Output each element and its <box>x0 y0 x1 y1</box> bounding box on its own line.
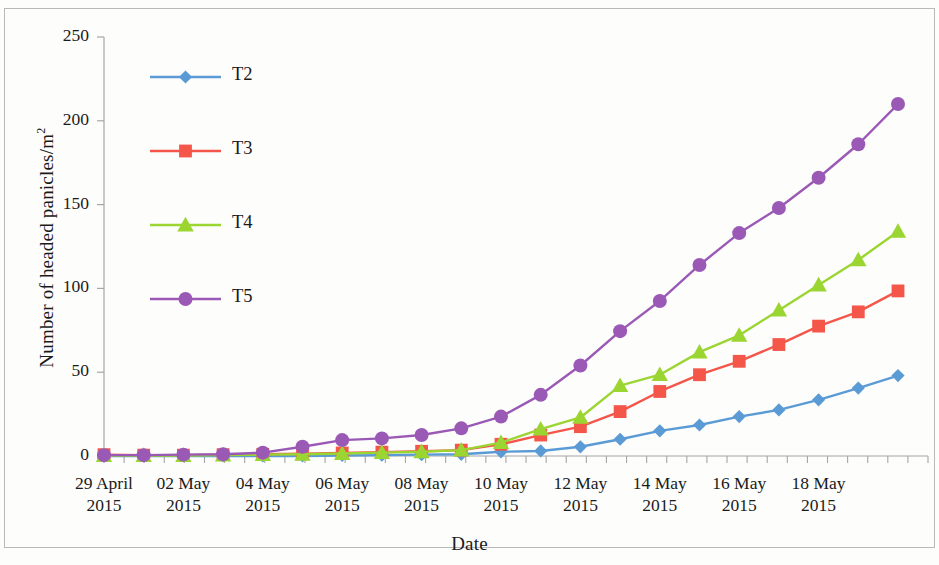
data-point <box>652 367 668 382</box>
data-point <box>454 421 468 435</box>
data-point <box>693 368 706 381</box>
legend-label-T3: T3 <box>232 138 253 159</box>
x-tick-label-year: 2015 <box>458 494 544 516</box>
x-tick-label-year: 2015 <box>299 494 385 516</box>
data-point <box>812 171 826 185</box>
x-tick-label-date: 16 May <box>696 472 782 494</box>
x-tick-label: 18 May2015 <box>776 472 862 517</box>
data-point <box>892 285 905 298</box>
data-point <box>534 388 548 402</box>
x-tick-label-date: 10 May <box>458 472 544 494</box>
x-tick-label: 10 May2015 <box>458 472 544 517</box>
x-tick-label: 12 May2015 <box>537 472 623 517</box>
data-point <box>614 433 627 446</box>
data-point <box>693 418 706 431</box>
data-point <box>653 385 666 398</box>
data-point <box>97 448 111 462</box>
legend-marker-T3 <box>179 145 192 158</box>
x-tick-label-date: 02 May <box>140 472 226 494</box>
data-point <box>693 258 707 272</box>
y-tick-label: 250 <box>29 25 89 46</box>
data-point <box>773 338 786 351</box>
x-tick-label: 29 April2015 <box>61 472 147 517</box>
x-tick-label: 16 May2015 <box>696 472 782 517</box>
y-tick-label: 50 <box>29 360 89 381</box>
data-point <box>890 223 906 238</box>
x-tick-label-date: 04 May <box>220 472 306 494</box>
data-point <box>732 226 746 240</box>
x-tick-label-year: 2015 <box>617 494 703 516</box>
chart-axes <box>97 37 928 463</box>
data-point <box>731 327 747 342</box>
x-tick-label-date: 14 May <box>617 472 703 494</box>
legend-marker-T5 <box>179 292 193 306</box>
data-point <box>137 448 151 462</box>
data-point <box>613 324 627 338</box>
x-tick-label-year: 2015 <box>379 494 465 516</box>
data-point <box>296 440 310 454</box>
x-tick-label-date: 08 May <box>379 472 465 494</box>
legend-marker-T2 <box>179 70 192 83</box>
data-point <box>256 446 270 460</box>
data-point <box>852 305 865 318</box>
x-tick-label-year: 2015 <box>140 494 226 516</box>
legend-markers <box>150 70 221 306</box>
data-point <box>733 355 746 368</box>
data-point <box>852 382 865 395</box>
x-tick-label: 02 May2015 <box>140 472 226 517</box>
data-point <box>494 410 508 424</box>
data-point <box>772 201 786 215</box>
legend-label-T2: T2 <box>232 64 253 85</box>
data-point <box>733 410 746 423</box>
data-point <box>415 428 429 442</box>
data-point <box>771 302 787 317</box>
data-point <box>574 440 587 453</box>
y-axis-title-text: Number of headed panicles/m <box>36 134 57 368</box>
y-tick-label: 150 <box>29 193 89 214</box>
x-tick-label-year: 2015 <box>537 494 623 516</box>
x-tick-label-date: 18 May <box>776 472 862 494</box>
y-tick-label: 200 <box>29 109 89 130</box>
data-point <box>772 403 785 416</box>
data-point <box>850 252 866 267</box>
x-tick-label: 06 May2015 <box>299 472 385 517</box>
x-tick-label-year: 2015 <box>220 494 306 516</box>
data-point <box>653 294 667 308</box>
legend-label-T5: T5 <box>232 286 253 307</box>
legend-label-T4: T4 <box>232 212 253 233</box>
data-point <box>573 358 587 372</box>
x-tick-label-date: 12 May <box>537 472 623 494</box>
y-axis-title: Number of headed panicles/m2 <box>34 38 57 458</box>
x-tick-label-year: 2015 <box>61 494 147 516</box>
data-point <box>216 447 230 461</box>
x-tick-label-date: 29 April <box>61 472 147 494</box>
data-point <box>176 448 190 462</box>
chart-figure: Number of headed panicles/m2 Date 050100… <box>0 0 939 565</box>
data-point <box>614 405 627 418</box>
data-point <box>375 431 389 445</box>
data-point <box>335 433 349 447</box>
data-point <box>653 424 666 437</box>
data-point <box>812 320 825 333</box>
data-point <box>691 344 707 359</box>
x-tick-label: 14 May2015 <box>617 472 703 517</box>
y-tick-label: 100 <box>29 276 89 297</box>
y-tick-label: 0 <box>29 444 89 465</box>
x-tick-label: 08 May2015 <box>379 472 465 517</box>
data-point <box>891 369 904 382</box>
x-axis-title: Date <box>0 533 939 555</box>
x-tick-label: 04 May2015 <box>220 472 306 517</box>
x-tick-label-year: 2015 <box>696 494 782 516</box>
data-point <box>851 137 865 151</box>
data-point <box>810 277 826 292</box>
data-point <box>812 393 825 406</box>
x-tick-label-date: 06 May <box>299 472 385 494</box>
x-tick-label-year: 2015 <box>776 494 862 516</box>
data-point <box>891 97 905 111</box>
